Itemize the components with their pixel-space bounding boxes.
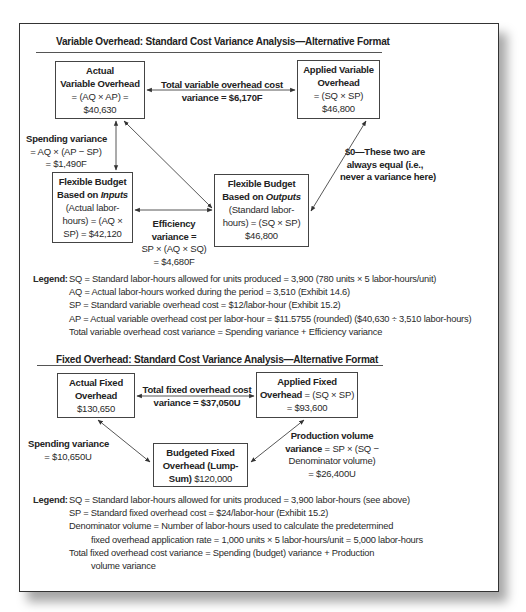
- legend-row: SQ = Standard labor-hours allowed for un…: [69, 273, 471, 286]
- applied-fixed-overhead-box: Applied Fixed Overhead = (SQ × SP) = $93…: [256, 372, 358, 418]
- box-line: Actual: [56, 64, 144, 77]
- production-volume-variance-label: Production volume variance = SP × (SQ − …: [282, 430, 382, 480]
- box-line-italic: Outputs: [266, 191, 301, 202]
- box-formula: = (SQ × SP): [298, 89, 379, 102]
- note-line: always equal (i.e.,: [340, 159, 430, 172]
- legend-row: SQ = Standard labor-hours allowed for un…: [69, 494, 423, 507]
- legend-row: volume variance: [69, 560, 423, 573]
- label-line: variance =: [132, 231, 216, 244]
- label-line: Spending variance: [28, 438, 108, 451]
- variance-value: $37,050U: [201, 397, 241, 408]
- box-value: SP) = $42,120: [53, 227, 132, 240]
- label-line: Production volume: [282, 430, 382, 443]
- variance-value: = $10,650U: [28, 451, 108, 464]
- legend-key: Legend:: [33, 273, 68, 286]
- label-line: Spending variance: [26, 133, 106, 146]
- variable-section-title: Variable Overhead: Standard Cost Varianc…: [56, 36, 390, 47]
- box-line: hours) = (AQ ×: [53, 214, 132, 227]
- box-formula: = (AQ × AP) =: [56, 90, 144, 103]
- box-value: $130,650: [58, 402, 134, 415]
- box-line: Overhead: [58, 389, 134, 402]
- legend-row: AP = Actual variable overhead cost per l…: [69, 313, 471, 326]
- label-formula: = AQ × (AP − SP): [26, 146, 106, 159]
- legend-row: SP = Standard fixed overhead cost = $24/…: [69, 507, 423, 520]
- box-formula: = (SQ × SP): [302, 389, 354, 400]
- fixed-section-title: Fixed Overhead: Standard Cost Variance A…: [56, 354, 378, 365]
- box-line: (Actual labor-: [53, 201, 132, 214]
- applied-variable-overhead-box: Applied Variable Overhead = (SQ × SP) $4…: [297, 60, 380, 119]
- legend-row: Total fixed overhead cost variance = Spe…: [69, 547, 423, 560]
- actual-variable-overhead-box: Actual Variable Overhead = (AQ × AP) = $…: [55, 61, 145, 119]
- label-line: Total fixed overhead cost: [140, 384, 254, 397]
- variance-value: $6,170F: [229, 92, 262, 103]
- fixed-title-rule: [37, 365, 383, 366]
- legend-row: SP = Standard variable overhead cost = $…: [69, 299, 471, 312]
- box-line: (Standard labor-: [215, 203, 308, 216]
- box-value: $120,000: [192, 473, 232, 484]
- note-line: never a variance here): [340, 171, 430, 184]
- total-fixed-variance-label: Total fixed overhead cost variance = $37…: [140, 384, 254, 409]
- note-line: $0—These two are: [340, 146, 430, 159]
- box-value: $46,800: [215, 229, 308, 242]
- box-line: Based on: [222, 191, 266, 202]
- box-line: Overhead (Lump-: [154, 459, 247, 472]
- total-variable-variance-label: Total variable overhead cost variance = …: [152, 79, 292, 104]
- box-line: Based on: [57, 189, 101, 200]
- box-line: Overhead: [260, 389, 302, 400]
- flexible-budget-inputs-box: Flexible Budget Based on Inputs (Actual …: [52, 172, 133, 243]
- flexible-budget-outputs-box: Flexible Budget Based on Outputs (Standa…: [214, 174, 309, 247]
- box-line: Budgeted Fixed: [154, 446, 247, 459]
- box-line: Sum): [169, 473, 192, 484]
- fixed-spending-variance-label: Spending variance = $10,650U: [28, 438, 108, 463]
- legend-row: Total variable overhead cost variance = …: [69, 326, 471, 339]
- variance-value: = $1,490F: [26, 158, 106, 171]
- label-formula: = SP × (SQ −: [322, 443, 379, 454]
- box-line: Variable Overhead: [56, 77, 144, 90]
- label-formula: Denominator volume): [282, 455, 382, 468]
- box-line: hours) = (SQ × SP): [215, 216, 308, 229]
- box-line: Applied Variable: [298, 63, 379, 76]
- legend-row: AQ = Actual labor-hours worked during th…: [69, 286, 471, 299]
- variable-spending-variance-label: Spending variance = AQ × (AP − SP) = $1,…: [26, 133, 106, 171]
- actual-fixed-overhead-box: Actual Fixed Overhead $130,650: [57, 373, 135, 418]
- label-formula: SP × (AQ × SQ): [132, 243, 216, 256]
- budgeted-fixed-overhead-box: Budgeted Fixed Overhead (Lump- Sum) $120…: [153, 443, 248, 487]
- label-line: Total variable overhead cost: [152, 79, 292, 92]
- zero-variance-note: $0—These two are always equal (i.e., nev…: [340, 146, 430, 184]
- box-line: Flexible Budget: [53, 175, 132, 188]
- legend-row: Denominator volume = Number of labor-hou…: [69, 520, 423, 533]
- legend-key: Legend:: [33, 494, 68, 507]
- box-value: = $93,600: [257, 401, 357, 414]
- box-line: Actual Fixed: [58, 376, 134, 389]
- variance-value: = $26,400U: [282, 468, 382, 481]
- variable-title-rule: [36, 52, 382, 53]
- label-line: variance =: [154, 397, 201, 408]
- legend-row: fixed overhead application rate = 1,000 …: [69, 534, 423, 547]
- box-line: Applied Fixed: [257, 375, 357, 388]
- label-line: Efficiency: [132, 218, 216, 231]
- box-line: Flexible Budget: [215, 177, 308, 190]
- box-value: $46,800: [298, 102, 379, 115]
- label-line: variance =: [182, 92, 229, 103]
- label-line: variance: [285, 443, 322, 454]
- variance-value: = $4,680F: [132, 256, 216, 269]
- efficiency-variance-label: Efficiency variance = SP × (AQ × SQ) = $…: [132, 218, 216, 268]
- box-value: $40,630: [56, 103, 144, 116]
- box-line: Overhead: [298, 76, 379, 89]
- box-line-italic: Inputs: [101, 189, 128, 200]
